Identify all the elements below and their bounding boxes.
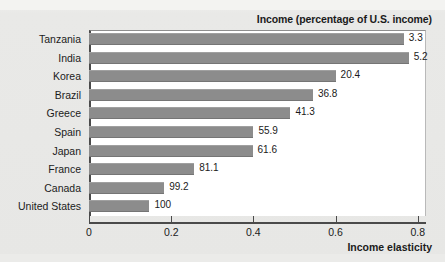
bar-value-label: 61.6 [258, 144, 277, 155]
bar-series: 3.35.220.436.841.355.961.681.199.2100 [89, 30, 426, 216]
bar-row: 5.2 [89, 49, 426, 68]
bar [89, 70, 336, 82]
x-axis-tick [171, 216, 172, 222]
figure-top-band [0, 0, 445, 10]
x-axis-tick-label: 0.6 [328, 226, 343, 238]
x-axis-line [89, 222, 426, 224]
bar-row: 61.6 [89, 142, 426, 161]
y-axis-category-labels: TanzaniaIndiaKoreaBrazilGreeceSpainJapan… [0, 30, 85, 216]
y-axis-label: Greece [0, 104, 85, 123]
y-axis-label: India [0, 49, 85, 68]
figure-bottom-band [0, 254, 445, 262]
chart-figure: Income (percentage of U.S. income) Tanza… [0, 0, 445, 262]
bar-value-label: 81.1 [199, 162, 218, 173]
y-axis-label: Korea [0, 67, 85, 86]
bar-row: 100 [89, 197, 426, 216]
bar [89, 33, 404, 45]
bar [89, 145, 253, 157]
bar-row: 55.9 [89, 123, 426, 142]
y-axis-label: Spain [0, 123, 85, 142]
y-axis-label: United States [0, 197, 85, 216]
bar-value-label: 41.3 [295, 106, 314, 117]
bar-row: 41.3 [89, 104, 426, 123]
x-axis-tick-label: 0 [86, 226, 92, 238]
chart-title: Income (percentage of U.S. income) [257, 13, 432, 25]
y-axis-label: Tanzania [0, 30, 85, 49]
x-axis-tick [336, 216, 337, 222]
bar-row: 81.1 [89, 160, 426, 179]
bar-value-label: 3.3 [409, 32, 423, 43]
bar-value-label: 36.8 [318, 88, 337, 99]
x-axis-tick [253, 216, 254, 222]
bar-value-label: 20.4 [341, 69, 360, 80]
bar-row: 99.2 [89, 179, 426, 198]
bar [89, 163, 194, 175]
bar-row: 20.4 [89, 67, 426, 86]
bar [89, 89, 313, 101]
bar-value-label: 99.2 [169, 181, 188, 192]
x-axis-tick-label: 0.4 [246, 226, 261, 238]
bar-row: 3.3 [89, 30, 426, 49]
bar [89, 200, 149, 212]
bar-row: 36.8 [89, 86, 426, 105]
x-axis-title: Income elasticity [347, 241, 432, 253]
bar-value-label: 55.9 [258, 125, 277, 136]
bar [89, 52, 409, 64]
bar [89, 126, 253, 138]
y-axis-label: Brazil [0, 86, 85, 105]
y-axis-label: Canada [0, 179, 85, 198]
y-axis-label: Japan [0, 142, 85, 161]
bar-value-label: 5.2 [414, 51, 428, 62]
bar-value-label: 100 [154, 199, 171, 210]
x-axis-tick-label: 0.8 [410, 226, 425, 238]
bar [89, 107, 290, 119]
y-axis-label: France [0, 160, 85, 179]
x-axis-tick-label: 0.2 [164, 226, 179, 238]
x-axis-tick [418, 216, 419, 222]
x-axis-tick [89, 216, 90, 222]
bar [89, 182, 164, 194]
